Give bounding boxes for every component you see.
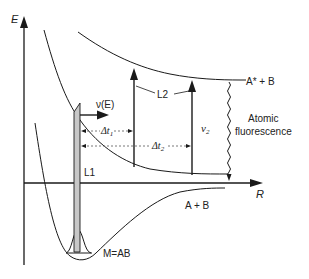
energy-axis-label: E xyxy=(11,13,19,25)
velocity-label: ν(E) xyxy=(96,99,114,110)
molecule-label: M=AB xyxy=(103,248,131,259)
repulsive-potential-curve xyxy=(44,30,228,174)
fluorescence-arrowhead-icon xyxy=(227,174,232,181)
probe-arrowhead-1-icon xyxy=(130,68,138,80)
upper-state-label: A* + B xyxy=(246,76,275,87)
probe-leader-2 xyxy=(174,91,189,94)
pump-laser-label: L1 xyxy=(84,167,96,178)
femtochemistry-diagram: E R ν(E) L2 ν2 Δt1 Δt2 A* + B At xyxy=(0,0,309,279)
fluorescence-label-line2: fluorescence xyxy=(235,126,292,137)
energy-axis xyxy=(20,16,28,265)
fluorescence-wavy-arrow xyxy=(228,82,231,176)
delay-2-indicator xyxy=(81,144,191,148)
probe-leader-1 xyxy=(136,86,155,93)
distance-axis-label: R xyxy=(256,188,264,200)
probe-frequency-label: ν2 xyxy=(201,122,210,136)
delay-1-label: Δt1 xyxy=(100,125,113,138)
pump-pulse-bar xyxy=(74,103,80,252)
ground-dissociation-label: A + B xyxy=(185,200,210,211)
distance-axis xyxy=(24,179,263,187)
ground-potential-well xyxy=(35,123,225,260)
fluorescence-label-line1: Atomic xyxy=(248,113,279,124)
velocity-arrowhead-icon xyxy=(97,111,109,120)
probe-arrowhead-2-icon xyxy=(188,80,196,92)
upper-potential-curve xyxy=(78,32,240,80)
probe-laser-label: L2 xyxy=(157,89,169,100)
delay-2-label: Δt2 xyxy=(151,140,165,153)
